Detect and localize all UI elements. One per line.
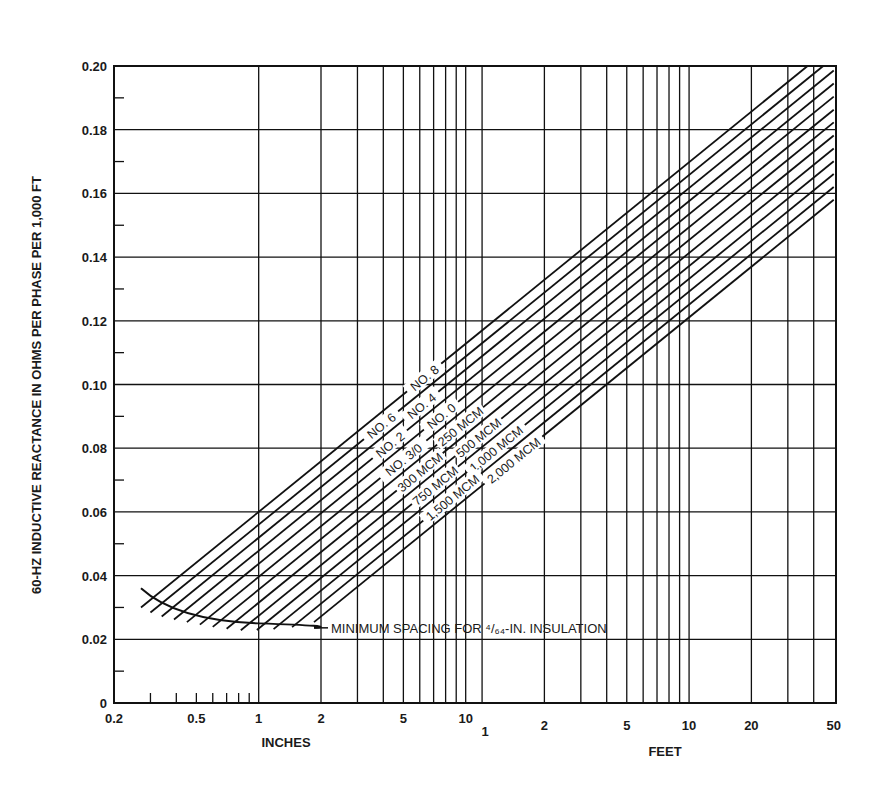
y-tick-label: 0.14 (82, 250, 108, 265)
series-line (200, 110, 834, 625)
y-tick-label: 0.04 (82, 569, 108, 584)
series-line (292, 187, 834, 627)
x-tick-label-inches: 10 (458, 711, 472, 726)
series-line (257, 161, 834, 630)
x-tick-label-inches: 0.5 (187, 711, 205, 726)
reactance-chart: 00.020.040.060.080.100.120.140.160.180.2… (0, 0, 895, 804)
x-tick-label-inches: 1 (255, 711, 262, 726)
min-spacing-path (141, 588, 321, 627)
y-tick-label: 0 (100, 696, 107, 711)
y-axis-title: 60-HZ INDUCTIVE REACTANCE IN OHMS PER PH… (29, 176, 44, 594)
y-tick-label: 0.10 (82, 378, 107, 393)
y-tick-label: 0.16 (82, 186, 107, 201)
x-axis-title-inches: INCHES (261, 735, 310, 750)
x-tick-label-feet: 50 (827, 718, 841, 733)
x-tick-label-inches: 5 (400, 711, 407, 726)
minimum-spacing-label: MINIMUM SPACING FOR ⁴/₆₄-IN. INSULATION (331, 621, 607, 636)
x-axis-title-feet: FEET (648, 744, 681, 759)
x-tick-label-feet: 5 (623, 718, 630, 733)
series-line (213, 122, 834, 627)
y-tick-label: 0.18 (82, 123, 107, 138)
series-line (162, 71, 834, 617)
series-line (241, 149, 834, 631)
x-tick-label-feet: 10 (682, 718, 696, 733)
series-line (227, 135, 834, 628)
y-tick-label: 0.12 (82, 314, 107, 329)
x-tick-label-feet: 2 (541, 718, 548, 733)
series-line (174, 84, 834, 620)
y-tick-label: 0.20 (82, 59, 107, 74)
series-line (141, 66, 808, 608)
y-tick-label: 0.02 (82, 632, 107, 647)
series-line (150, 66, 823, 613)
x-tick-label-feet: 1 (481, 724, 488, 739)
y-tick-label: 0.06 (82, 505, 107, 520)
conductor-lines (141, 66, 834, 630)
x-axis-tick-labels: 0.20.512510125102050 (105, 711, 841, 739)
x-tick-label-feet: 20 (744, 718, 758, 733)
x-tick-label-inches: 2 (317, 711, 324, 726)
x-tick-label-inches: 0.2 (105, 711, 123, 726)
y-tick-label: 0.08 (82, 441, 107, 456)
series-line (187, 97, 834, 623)
y-axis-tick-labels: 00.020.040.060.080.100.120.140.160.180.2… (82, 59, 108, 711)
